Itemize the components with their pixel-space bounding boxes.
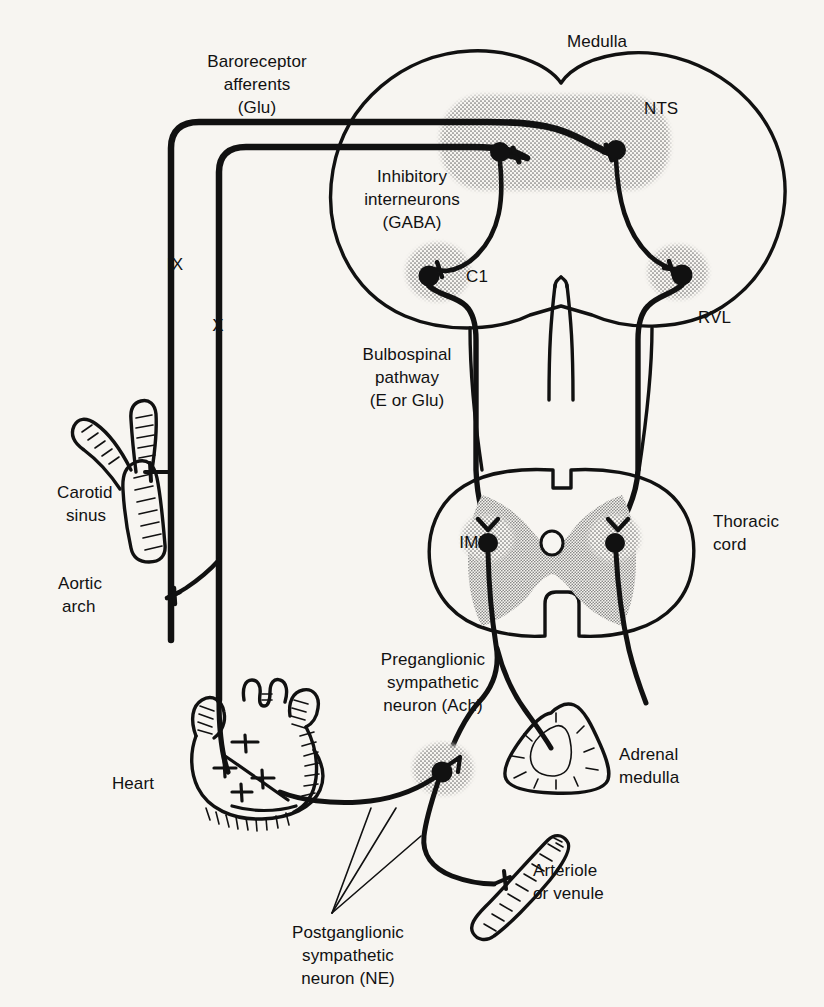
nts-shaded-region (430, 85, 680, 200)
iml-neuron-soma-right (605, 533, 625, 553)
baroreflex-diagram: Medulla NTS RVL C1 IX X Baroreceptor aff… (0, 0, 824, 1007)
label-rvl: RVL (698, 308, 731, 327)
label-heart: Heart (112, 774, 154, 793)
svg-text:(Glu): (Glu) (238, 98, 276, 117)
svg-text:(E or Glu): (E or Glu) (370, 391, 445, 410)
label-bulbospinal-pathway: Bulbospinal pathway (E or Glu) (363, 345, 452, 410)
nts-neuron-soma-right (606, 140, 626, 160)
diagram-canvas: Medulla NTS RVL C1 IX X Baroreceptor aff… (0, 0, 824, 1007)
svg-text:Inhibitory: Inhibitory (377, 167, 447, 186)
svg-text:sympathetic: sympathetic (302, 946, 394, 965)
svg-text:interneurons: interneurons (364, 190, 460, 209)
svg-text:neuron (NE): neuron (NE) (301, 969, 395, 988)
svg-text:Postganglionic: Postganglionic (292, 923, 404, 942)
label-ix: IX (167, 255, 183, 274)
svg-text:Carotid: Carotid (57, 483, 113, 502)
svg-text:arch: arch (62, 597, 95, 616)
svg-text:Adrenal: Adrenal (619, 745, 678, 764)
svg-text:afferents: afferents (224, 75, 291, 94)
svg-text:neuron (Ach): neuron (Ach) (383, 696, 482, 715)
label-nts: NTS (644, 99, 678, 118)
label-x: X (212, 316, 223, 335)
label-postganglionic-neuron: Postganglionic sympathetic neuron (NE) (292, 923, 404, 988)
svg-text:Aortic: Aortic (58, 574, 102, 593)
nts-neuron-soma-left (490, 142, 510, 162)
svg-text:sympathetic: sympathetic (387, 673, 479, 692)
svg-text:(GABA): (GABA) (382, 213, 441, 232)
svg-text:Arteriole: Arteriole (533, 861, 597, 880)
label-preganglionic-neuron: Preganglionic sympathetic neuron (Ach) (381, 650, 486, 715)
svg-text:Thoracic: Thoracic (713, 512, 779, 531)
svg-text:Bulbospinal: Bulbospinal (363, 345, 452, 364)
svg-text:Baroreceptor: Baroreceptor (207, 52, 307, 71)
svg-text:Preganglionic: Preganglionic (381, 650, 486, 669)
label-medulla: Medulla (567, 32, 628, 51)
label-iml: IML (459, 533, 488, 552)
svg-text:sinus: sinus (66, 506, 106, 525)
svg-text:medulla: medulla (619, 768, 680, 787)
svg-text:pathway: pathway (375, 368, 439, 387)
svg-text:or venule: or venule (533, 884, 604, 903)
central-canal (541, 531, 563, 555)
label-c1: C1 (466, 267, 488, 286)
svg-text:cord: cord (713, 535, 746, 554)
